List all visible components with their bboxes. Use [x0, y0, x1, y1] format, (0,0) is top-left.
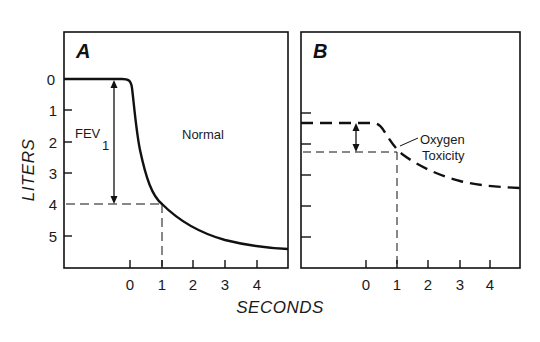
svg-text:2: 2	[49, 134, 57, 151]
svg-text:0: 0	[47, 71, 55, 88]
panel-a-x-tick-labels: 0 1 2 3 4	[126, 276, 261, 293]
fev1-double-arrow	[111, 80, 118, 204]
oxygen-double-arrow	[353, 123, 360, 152]
fev-label: FEV	[75, 126, 101, 141]
svg-text:3: 3	[49, 165, 57, 182]
panel-b-label: B	[313, 40, 327, 62]
y-tick-labels: 0 1 2 3 4 5	[47, 71, 57, 245]
fev-subscript: 1	[102, 138, 109, 153]
svg-text:4: 4	[253, 276, 261, 293]
panel-a-x-ticks	[130, 260, 257, 268]
x-axis-title: SECONDS	[236, 298, 324, 317]
svg-text:2: 2	[424, 276, 432, 293]
svg-text:1: 1	[49, 102, 57, 119]
panel-a-reference-lines	[66, 204, 162, 266]
svg-text:1: 1	[393, 276, 401, 293]
oxygen-leader-line	[400, 138, 418, 146]
toxicity-label: Toxicity	[422, 148, 465, 163]
oxygen-toxicity-curve	[301, 123, 520, 188]
svg-text:5: 5	[49, 228, 57, 245]
y-axis-title: LITERS	[19, 139, 38, 202]
panel-b: B 0 1 2 3 4	[301, 32, 520, 293]
svg-text:3: 3	[221, 276, 229, 293]
panel-b-x-ticks	[366, 260, 490, 268]
svg-text:4: 4	[49, 196, 57, 213]
svg-text:0: 0	[362, 276, 370, 293]
normal-curve	[64, 79, 288, 249]
svg-text:0: 0	[126, 276, 134, 293]
panel-b-x-tick-labels: 0 1 2 3 4	[362, 276, 494, 293]
svg-text:4: 4	[486, 276, 494, 293]
spirometry-figure: LITERS 0 1 2 3 4 5 A 0 1 2	[0, 0, 540, 342]
panel-a-y-ticks	[64, 110, 72, 236]
panel-b-y-ticks	[301, 113, 311, 237]
oxygen-label: Oxygen	[420, 132, 465, 147]
panel-a-frame	[64, 32, 288, 268]
panel-b-reference-lines	[303, 152, 397, 266]
panel-a-label: A	[75, 40, 90, 62]
svg-text:3: 3	[456, 276, 464, 293]
normal-label: Normal	[182, 127, 224, 142]
panel-b-frame	[301, 32, 520, 268]
svg-text:1: 1	[158, 276, 166, 293]
panel-a: A 0 1 2 3 4	[64, 32, 288, 293]
svg-text:2: 2	[189, 276, 197, 293]
